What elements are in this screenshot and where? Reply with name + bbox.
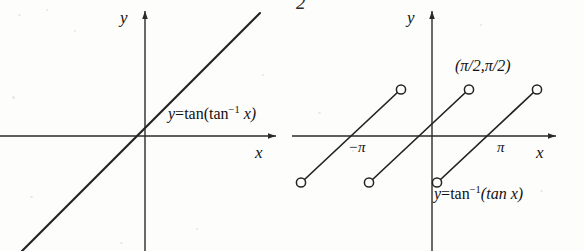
left-function-label-equals: =tan(tan [175,105,228,122]
right-x-axis-arrowhead [548,133,556,139]
figure-drawing [0,0,584,251]
left-function-label: y=tan(tan−1 x) [168,106,256,122]
right-y-axis-arrowhead [429,11,435,19]
open-endpoint-center-lower [364,178,373,187]
figure-container: 2 y x y=tan(tan−1 x) y x −π π (π/2,π/2) … [0,0,584,251]
right-function-label-exponent: −1 [470,184,481,195]
right-function-label-suffix: (tan x) [481,185,523,202]
point-label-pi-over-2: (π/2,π/2) [455,58,511,74]
open-endpoint-left-upper [396,85,405,94]
left-function-label-suffix: x) [240,105,256,122]
tick-label-pi: π [497,140,505,155]
right-function-label: y=tan−1(tan x) [434,186,523,202]
tick-label-negative-pi: −π [348,140,366,155]
left-x-axis-arrowhead [268,133,276,139]
left-function-label-exponent: −1 [229,104,240,115]
right-function-label-equals: =tan [441,185,470,202]
left-panel-curve [22,13,260,251]
left-y-axis-label: y [120,9,128,26]
right-x-axis-label: x [536,144,544,161]
right-y-axis-label: y [407,9,415,26]
identity-line [22,13,260,251]
open-endpoint-center-upper [464,85,473,94]
figure-corner-number: 2 [296,0,306,12]
left-y-axis-arrowhead [142,11,148,19]
open-endpoint-left-lower [296,178,305,187]
left-x-axis-label: x [255,144,263,161]
left-panel-axes [0,11,276,251]
open-endpoint-right-upper [532,85,541,94]
